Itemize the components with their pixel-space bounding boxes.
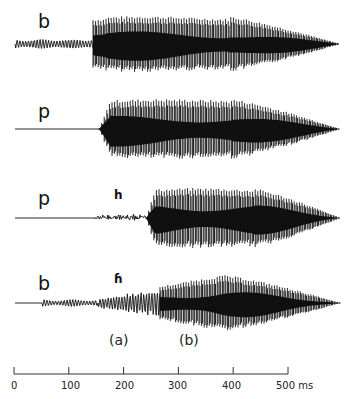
time-axis-ticks — [14, 367, 288, 374]
waveform-row1 — [15, 16, 340, 72]
time-axis: 0 100 200 300 400 500 ms — [11, 367, 313, 391]
waveform-group — [15, 16, 340, 330]
tick-label-100: 100 — [61, 380, 80, 391]
waveform-figure: b p p h b ɦ (a) (b) 0 100 200 300 400 50… — [0, 0, 352, 399]
tick-label-200: 200 — [115, 380, 134, 391]
row1-segment-label: b — [38, 10, 50, 32]
tick-label-400: 400 — [222, 380, 241, 391]
tick-label-500: 500 ms — [276, 380, 313, 391]
waveform-row3 — [15, 188, 340, 248]
region-b-label: (b) — [179, 332, 199, 348]
waveform-row4 — [15, 275, 340, 330]
row2-segment-label: p — [38, 100, 50, 122]
tick-label-0: 0 — [11, 380, 17, 391]
row3-segment-label: p — [38, 187, 50, 209]
row4-segment-label: b — [38, 272, 50, 294]
row4-breathy-label: ɦ — [114, 272, 123, 286]
tick-label-300: 300 — [168, 380, 187, 391]
waveform-row2 — [15, 99, 340, 158]
row3-aspiration-label: h — [114, 188, 123, 202]
region-a-label: (a) — [109, 332, 129, 348]
